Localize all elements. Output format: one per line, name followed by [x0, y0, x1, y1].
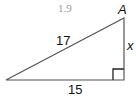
height-label: x	[126, 38, 134, 53]
triangle-outline	[6, 18, 124, 80]
base-label: 15	[68, 82, 82, 97]
right-angle-marker	[113, 69, 124, 80]
hypotenuse-label: 17	[56, 33, 70, 48]
problem-number: 1.9	[58, 2, 72, 14]
vertex-a-label: A	[117, 2, 127, 17]
right-triangle-diagram: 1.9 A 17 x 15	[0, 0, 136, 98]
